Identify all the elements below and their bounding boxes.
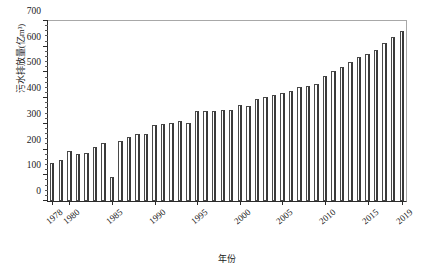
y-axis-minor-tick xyxy=(45,41,48,42)
x-axis-tick xyxy=(282,201,283,205)
y-axis-minor-tick xyxy=(45,102,48,103)
y-axis-minor-tick xyxy=(45,159,48,160)
x-axis-tick xyxy=(197,201,198,205)
bar xyxy=(178,121,182,201)
y-axis-tick-label: 200 xyxy=(27,135,41,145)
bar xyxy=(212,111,216,201)
y-axis-minor-tick xyxy=(45,61,48,62)
bar xyxy=(255,99,259,201)
bar xyxy=(289,91,293,201)
y-axis-minor-tick xyxy=(45,154,48,155)
bar xyxy=(144,134,148,201)
bar xyxy=(110,177,114,201)
x-axis-tick xyxy=(240,201,241,205)
x-axis-tick-label: 2005 xyxy=(275,207,295,226)
y-axis-minor-tick xyxy=(45,107,48,108)
y-axis-minor-tick xyxy=(45,128,48,129)
bar xyxy=(195,111,199,201)
bar xyxy=(186,123,190,201)
y-axis-minor-tick xyxy=(45,195,48,196)
x-axis-tick-label: 1995 xyxy=(189,207,209,226)
plot-area: 0100200300400500600700197819801985199019… xyxy=(47,20,407,202)
bar xyxy=(203,111,207,202)
bar xyxy=(340,67,344,201)
bar xyxy=(246,106,250,201)
bar xyxy=(331,71,335,201)
x-axis-tick-label: 1990 xyxy=(147,207,167,226)
y-axis-minor-tick xyxy=(45,92,48,93)
y-axis-minor-tick xyxy=(45,138,48,139)
y-axis-major-tick xyxy=(43,20,48,21)
y-axis-minor-tick xyxy=(45,164,48,165)
y-axis-tick-label: 500 xyxy=(27,57,41,67)
y-axis-minor-tick xyxy=(45,35,48,36)
bar xyxy=(135,134,139,201)
bar xyxy=(365,54,369,201)
bar xyxy=(280,93,284,201)
bar xyxy=(101,143,105,201)
x-axis-tick-label: 2015 xyxy=(360,207,380,226)
y-axis-minor-tick xyxy=(45,185,48,186)
y-axis-major-tick xyxy=(43,174,48,175)
wastewater-discharge-bar-chart: 污水排放量(亿m³) 01002003004005006007001978198… xyxy=(0,0,422,277)
y-axis-tick-label: 300 xyxy=(27,109,41,119)
y-axis-tick-label: 700 xyxy=(27,6,41,16)
y-axis-major-tick xyxy=(43,46,48,47)
y-axis-minor-tick xyxy=(45,169,48,170)
x-axis-tick xyxy=(155,201,156,205)
bar xyxy=(348,62,352,201)
x-axis-tick-label: 1980 xyxy=(62,207,82,226)
y-axis-minor-tick xyxy=(45,118,48,119)
bar xyxy=(382,43,386,201)
bar xyxy=(84,153,88,201)
bar xyxy=(161,124,165,201)
y-axis-tick-label: 400 xyxy=(27,83,41,93)
bar xyxy=(221,110,225,201)
y-axis-major-tick xyxy=(43,149,48,150)
bar xyxy=(127,137,131,201)
bar xyxy=(118,141,122,201)
bars-layer xyxy=(48,21,406,201)
y-axis-minor-tick xyxy=(45,87,48,88)
x-axis-tick xyxy=(402,201,403,205)
bar xyxy=(272,95,276,201)
bar xyxy=(59,160,63,201)
y-axis-major-tick xyxy=(43,123,48,124)
x-axis-tick xyxy=(69,201,70,205)
y-axis-minor-tick xyxy=(45,66,48,67)
bar xyxy=(229,110,233,201)
bar xyxy=(67,151,71,201)
y-axis-minor-tick xyxy=(45,143,48,144)
x-axis-tick xyxy=(325,201,326,205)
bar xyxy=(76,154,80,201)
y-axis-tick-label: 100 xyxy=(27,160,41,170)
x-axis-title: 年份 xyxy=(47,252,407,265)
x-axis-tick-label: 2010 xyxy=(317,207,337,226)
bar xyxy=(314,84,318,201)
y-axis-minor-tick xyxy=(45,51,48,52)
bar xyxy=(238,105,242,201)
bar xyxy=(400,31,404,201)
bar xyxy=(297,87,301,201)
x-axis-tick xyxy=(52,201,53,205)
bar xyxy=(152,125,156,201)
y-axis-major-tick xyxy=(43,200,48,201)
y-axis-minor-tick xyxy=(45,82,48,83)
bar xyxy=(391,37,395,201)
x-axis-tick-label: 2019 xyxy=(394,207,414,226)
y-axis-tick-label: 600 xyxy=(27,32,41,42)
bar xyxy=(374,50,378,201)
x-axis-tick xyxy=(368,201,369,205)
bar xyxy=(357,57,361,201)
y-axis-tick-label: 0 xyxy=(36,186,41,196)
bar xyxy=(93,147,97,201)
bar xyxy=(169,123,173,201)
y-axis-minor-tick xyxy=(45,179,48,180)
y-axis-major-tick xyxy=(43,97,48,98)
x-axis-tick xyxy=(112,201,113,205)
bar xyxy=(263,97,267,201)
y-axis-major-tick xyxy=(43,71,48,72)
y-axis-minor-tick xyxy=(45,77,48,78)
bar xyxy=(306,86,310,201)
y-axis-minor-tick xyxy=(45,113,48,114)
